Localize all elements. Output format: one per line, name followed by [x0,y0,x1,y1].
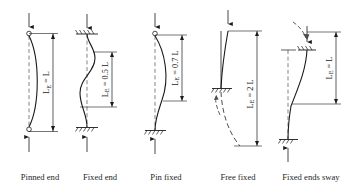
fixed-support-top-icon [76,30,99,34]
case-free-fixed: LE = 2 L Free fixed [212,10,263,182]
buckled-shape [288,50,307,139]
fixed-support-top-icon [298,46,317,50]
case-caption: Fixed ends sway [282,172,340,182]
column-buckling-diagram: LE = L Pinned end [0,0,353,192]
case-fixed-ends-sway: LE = L Fixed ends sway [279,22,342,182]
effective-length-label: LE = L [325,57,335,80]
case-pin-fixed: LE = 0.7 L Pin fixed [145,13,188,182]
case-caption: Free fixed [220,172,256,182]
effective-length-label: LE = L [42,71,52,94]
fixed-support-bottom-icon [76,128,99,132]
fixed-support-bottom-icon [279,140,299,144]
buckled-shape [29,36,37,127]
effective-length-label: LE = 0.7 L [171,50,181,86]
pin-support-bottom-icon [27,127,32,132]
case-caption: Pin fixed [150,172,182,182]
effective-length-label: LE = 0.5 L [101,62,111,98]
buckled-shape [155,36,166,130]
mirror-dashed-shape [221,92,240,146]
sway-curved-arrow-icon [214,95,220,115]
case-fixed-end: LE = 0.5 L Fixed end [76,14,118,182]
fixed-support-bottom-icon [212,89,233,93]
case-caption: Fixed end [83,172,118,182]
effective-length-label: LE = 2 L [246,79,256,108]
buckled-shape [221,31,228,88]
dimension-line [292,32,341,104]
dimension-line [80,52,117,107]
buckled-shape [80,34,95,127]
fixed-support-bottom-icon [145,131,167,135]
case-caption: Pinned end [21,172,60,182]
case-pinned-end: LE = L Pinned end [21,13,60,182]
